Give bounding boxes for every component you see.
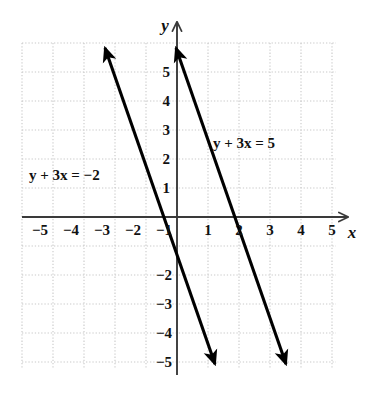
x-tick-label: 1	[204, 222, 212, 238]
graph-canvas: −5 −4 −3 −2 −1 1 2 3 4 5 5 4 3 2 1 −2 −3…	[0, 0, 372, 396]
y-tick-label: 3	[163, 122, 171, 138]
y-tick-label: −4	[156, 325, 173, 341]
y-tick-label: 5	[163, 64, 171, 80]
y-tick-label: −5	[156, 354, 172, 370]
y-tick-label: 4	[163, 93, 171, 109]
equation-label-right: y + 3x = 5	[213, 135, 275, 151]
y-tick-label: −3	[156, 296, 172, 312]
x-tick-label: −3	[94, 222, 110, 238]
x-tick-label: 5	[328, 222, 336, 238]
y-tick-label: 1	[163, 180, 171, 196]
y-axis-label: y	[159, 16, 169, 35]
y-tick-label: 2	[163, 151, 171, 167]
x-tick-label: −2	[125, 222, 141, 238]
x-tick-label: −1	[156, 222, 172, 238]
figure-background	[0, 0, 372, 396]
x-axis-label: x	[347, 223, 357, 242]
x-tick-label: −4	[63, 222, 80, 238]
x-tick-label: −5	[32, 222, 48, 238]
coordinate-graph-figure: −5 −4 −3 −2 −1 1 2 3 4 5 5 4 3 2 1 −2 −3…	[0, 0, 372, 396]
x-tick-label: 2	[235, 222, 243, 238]
y-tick-label: −2	[156, 267, 172, 283]
equation-label-left: y + 3x = −2	[29, 167, 100, 183]
x-tick-label: 3	[266, 222, 274, 238]
x-tick-label: 4	[297, 222, 305, 238]
